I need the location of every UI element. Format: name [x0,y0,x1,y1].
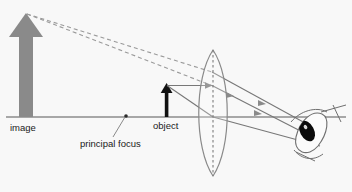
image-label: image [10,122,36,133]
ray-diagram-figure: image object principal focus [0,0,352,192]
principal-focus-label: principal focus [80,138,141,149]
diagram-canvas: image object principal focus [0,0,352,192]
figure-background [0,0,352,192]
object-label: object [153,120,179,131]
